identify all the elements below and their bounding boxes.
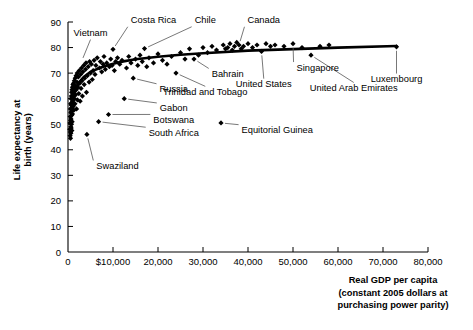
data-point [245,41,250,46]
x-axis-title-line: Real GDP per capita [349,275,439,285]
data-point [151,60,156,65]
data-point [160,58,165,63]
data-point [254,42,259,47]
data-point [135,63,140,68]
y-tick-label: 70 [50,68,61,79]
data-point [122,96,127,101]
annotation-label: Vietnam [74,28,108,38]
y-tick-label: 30 [50,170,61,181]
data-point [101,54,106,59]
annotation-label: Swaziland [96,161,138,171]
annotation-label: Bahrain [212,69,244,79]
y-tick-label: 90 [50,17,61,28]
annotation-leader [225,123,239,124]
x-axis-title-line: purchasing power parity) [337,300,448,310]
x-tick-label: 60,000 [323,256,352,267]
data-point [126,54,131,59]
data-point [187,46,192,51]
data-point [110,47,115,52]
data-point [308,53,313,58]
annotation-label: United Arab Emirates [310,83,398,93]
data-point [131,76,136,81]
data-point [142,46,147,51]
x-tick-label: 20,000 [143,256,172,267]
data-point [182,56,187,61]
y-axis-title-line: Life expectancy at [12,100,22,181]
y-tick-label: 20 [50,195,61,206]
annotation-leader [88,138,93,160]
x-tick-label: 30,000 [188,256,217,267]
annotation-leader [128,99,157,103]
chart-canvas: 0102030405060708090 0$10,00020,00030,000… [0,0,473,330]
y-tick-label: 60 [50,93,61,104]
annotation-leader [240,27,244,41]
data-point [191,56,196,61]
annotation-leader [262,55,264,78]
annotation-label: Costa Rica [131,15,177,25]
annotation-label: Botswana [153,115,195,125]
annotation-leader [148,27,192,47]
data-point [96,119,101,124]
annotation-label: Equitorial Guinea [242,125,314,135]
annotation-label: Russia [160,84,189,94]
annotation-label: Gabon [160,103,188,113]
data-point [218,120,223,125]
annotation-leader [197,61,208,68]
annotation-leader [83,40,90,58]
data-point [84,132,89,137]
x-axis-title: Real GDP per capita(constant 2005 dollar… [337,275,448,310]
annotation-label: Chile [195,15,216,25]
x-tick-label: $10,000 [96,256,130,267]
y-tick-label: 0 [56,247,61,258]
x-axis-group: 0$10,00020,00030,00040,00050,00060,00070… [65,247,442,267]
data-point [108,56,113,61]
y-tick-label: 80 [50,42,61,53]
data-point [272,42,277,47]
x-tick-label: 50,000 [278,256,307,267]
annotation-label: South Africa [149,128,200,138]
data-point [200,45,205,50]
annotation-leader [103,122,146,127]
data-point [144,64,149,69]
x-tick-label: 70,000 [368,256,397,267]
y-tick-label: 10 [50,221,61,232]
y-axis-title-line: birth (years) [23,113,33,167]
annotation-leader [115,27,128,46]
annotation-label: Singapore [297,63,339,73]
data-point [84,90,89,95]
annotation-labels: Costa RicaChileCanadaVietnamBahrainSinga… [74,15,423,171]
data-point [173,71,178,76]
scatter-chart: 0102030405060708090 0$10,00020,00030,000… [0,0,473,330]
x-tick-label: 40,000 [233,256,262,267]
data-point [290,41,295,46]
data-point [268,44,273,49]
data-point [263,41,268,46]
annotation-label: Canada [247,15,280,25]
data-point [112,68,117,73]
data-point [106,112,111,117]
x-axis-title-line: (constant 2005 dollars at [338,288,447,298]
data-point [209,44,214,49]
data-point [124,65,129,70]
data-point [164,62,169,67]
annotation-leader [137,79,156,84]
data-point [137,53,142,58]
y-axis-title: Life expectancy atbirth (years) [12,100,33,181]
x-axis-ticks: 0$10,00020,00030,00040,00050,00060,00070… [65,247,442,267]
x-tick-label: 0 [65,256,70,267]
y-tick-label: 50 [50,119,61,130]
x-tick-label: 80,000 [413,256,442,267]
y-tick-label: 40 [50,144,61,155]
